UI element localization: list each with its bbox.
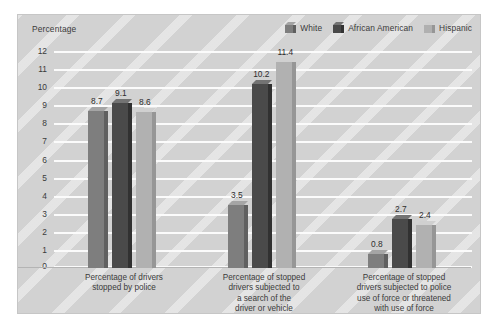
category-line: a search of the xyxy=(200,294,328,304)
legend-label-african-american: African American xyxy=(348,23,413,33)
y-tick-label: 11 xyxy=(38,64,47,74)
category-line: use of force or threatened xyxy=(336,294,472,304)
y-tick-label: 3 xyxy=(42,209,47,219)
legend-label-white: White xyxy=(300,23,322,33)
y-tick-label: 10 xyxy=(38,82,47,92)
category-line: Percentage of stopped xyxy=(200,273,328,283)
y-tick-label: 4 xyxy=(42,191,47,201)
bar-african-american[interactable]: 9.1 xyxy=(112,103,128,268)
category-line: driver or vehicle xyxy=(200,304,328,314)
bar-group: 0.8 2.7 2.4 xyxy=(368,51,438,268)
legend-label-hispanic: Hispanic xyxy=(439,23,472,33)
category-label-0: Percentage of drivers stopped by police xyxy=(64,273,184,294)
category-label-1: Percentage of stopped drivers subjected … xyxy=(200,273,328,314)
category-line: with use of force xyxy=(336,304,472,314)
bar-group: 3.5 10.2 11.4 xyxy=(228,51,298,268)
chart-legend: White African American Hispanic xyxy=(285,22,472,33)
category-line: Percentage of drivers xyxy=(64,273,184,283)
bar-hispanic[interactable]: 2.4 xyxy=(416,225,432,268)
bar-african-american[interactable]: 2.7 xyxy=(392,219,408,268)
y-axis-title: Percentage xyxy=(32,24,76,34)
category-line: drivers subjected to police xyxy=(336,283,472,293)
bar-chart-card: Percentage White African American xyxy=(17,14,481,314)
category-line: drivers subjected to xyxy=(200,283,328,293)
bar-value-label: 2.4 xyxy=(419,210,431,220)
legend-item-african-american: African American xyxy=(333,22,413,33)
bar-value-label: 8.6 xyxy=(139,97,151,107)
y-tick-label: 1 xyxy=(42,245,47,255)
legend-item-hispanic: Hispanic xyxy=(424,22,472,33)
y-tick-label: 12 xyxy=(38,46,47,56)
legend-swatch-hispanic-icon xyxy=(424,22,435,33)
legend-item-white: White xyxy=(285,22,322,33)
bar-value-label: 2.7 xyxy=(395,204,407,214)
bar-african-american[interactable]: 10.2 xyxy=(252,84,268,269)
legend-swatch-white-icon xyxy=(285,22,296,33)
bar-value-label: 10.2 xyxy=(253,69,269,79)
category-line: Percentage of stopped xyxy=(336,273,472,283)
bar-white[interactable]: 3.5 xyxy=(228,205,244,268)
y-tick-label: 7 xyxy=(42,136,47,146)
bar-group: 8.7 9.1 8.6 xyxy=(88,51,158,268)
bar-white[interactable]: 8.7 xyxy=(88,111,104,268)
category-line: stopped by police xyxy=(64,283,184,293)
bar-value-label: 3.5 xyxy=(231,190,243,200)
y-tick-label: 9 xyxy=(42,100,47,110)
x-axis-category-labels: Percentage of drivers stopped by police … xyxy=(54,273,472,314)
legend-swatch-african-american-icon xyxy=(333,22,344,33)
bar-white[interactable]: 0.8 xyxy=(368,254,384,269)
category-label-2: Percentage of stopped drivers subjected … xyxy=(336,273,472,314)
y-tick-label: 2 xyxy=(42,227,47,237)
plot-area: 12 11 10 9 8 7 6 5 4 3 2 1 0 8.7 xyxy=(54,51,472,268)
gridlines-and-bars: 12 11 10 9 8 7 6 5 4 3 2 1 0 8.7 xyxy=(54,51,472,268)
y-tick-label: 6 xyxy=(42,155,47,165)
bar-value-label: 11.4 xyxy=(277,47,293,57)
y-tick-label: 5 xyxy=(42,173,47,183)
bar-hispanic[interactable]: 11.4 xyxy=(276,62,292,268)
bar-value-label: 8.7 xyxy=(91,96,103,106)
y-tick-label: 8 xyxy=(42,118,47,128)
bar-value-label: 9.1 xyxy=(115,88,127,98)
bar-value-label: 0.8 xyxy=(371,239,383,249)
bar-hispanic[interactable]: 8.6 xyxy=(136,112,152,268)
y-tick-label: 0 xyxy=(42,261,47,271)
